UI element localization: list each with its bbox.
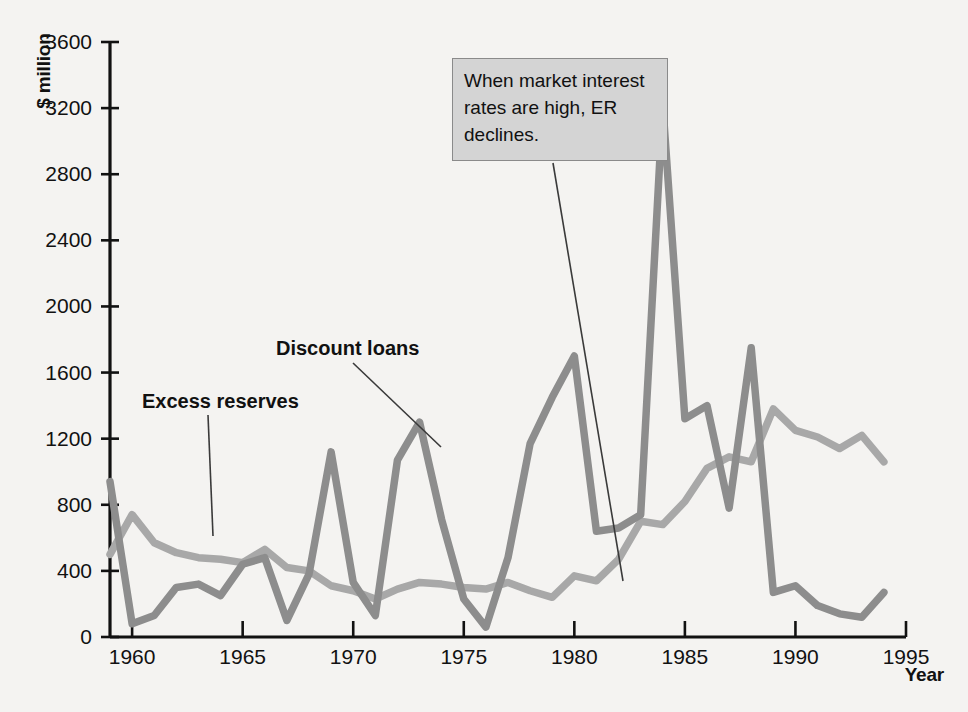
x-axis-ticks (132, 621, 906, 637)
x-tick-label: 1970 (330, 645, 377, 669)
x-tick-label: 1960 (109, 645, 156, 669)
y-tick-label: 2800 (0, 162, 92, 186)
x-tick-label: 1995 (883, 645, 930, 669)
x-tick-label: 1975 (440, 645, 487, 669)
y-tick-label: 1200 (0, 427, 92, 451)
y-tick-label: 400 (0, 559, 92, 583)
y-tick-label: 3200 (0, 96, 92, 120)
annotation-callout: When market interest rates are high, ER … (452, 58, 668, 161)
y-tick-label: 1600 (0, 361, 92, 385)
chart-figure: $ million Year 0400800120016002000240028… (0, 0, 968, 712)
series-label-discount-loans: Discount loans (276, 337, 419, 360)
x-tick-label: 1985 (662, 645, 709, 669)
data-series-group (110, 105, 884, 627)
series-line-discount-loans (110, 105, 884, 627)
leader-line-discount-loans (353, 363, 441, 447)
y-tick-label: 0 (0, 625, 92, 649)
annotation-leader-lines (208, 163, 623, 581)
x-tick-label: 1990 (772, 645, 819, 669)
x-tick-label: 1980 (551, 645, 598, 669)
y-tick-label: 2000 (0, 294, 92, 318)
y-tick-label: 2400 (0, 228, 92, 252)
y-tick-label: 3600 (0, 30, 92, 54)
series-label-excess-reserves: Excess reserves (142, 390, 299, 413)
x-tick-label: 1965 (219, 645, 266, 669)
y-tick-label: 800 (0, 493, 92, 517)
leader-line-excess-reserves (208, 415, 213, 536)
